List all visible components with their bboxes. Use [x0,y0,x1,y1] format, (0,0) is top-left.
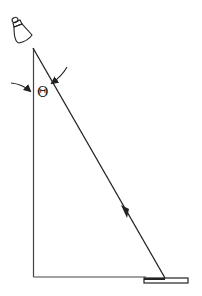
left-angle-arrow-icon [11,83,30,91]
lamp-icon [11,16,32,43]
right-angle-arrow-icon [52,67,67,83]
angle-label: Θ [37,84,48,100]
ray-arrow-icon [121,205,129,218]
ray-diagram: Θ [0,0,202,296]
